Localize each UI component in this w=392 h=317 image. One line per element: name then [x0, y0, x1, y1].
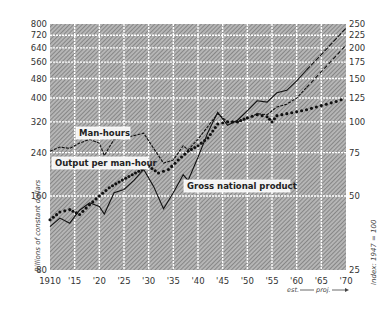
- output-dot: [71, 210, 74, 213]
- output-dot: [266, 115, 269, 118]
- output-dot: [78, 213, 81, 216]
- output-dot: [154, 169, 157, 172]
- output-dot: [111, 184, 114, 187]
- output-dot: [216, 123, 219, 126]
- right-tick-label: 200: [349, 43, 365, 53]
- chart: Man-hoursOutput per man-hourGross nation…: [0, 0, 392, 317]
- output-dot: [325, 103, 328, 106]
- output-dot: [320, 104, 323, 107]
- output-dot: [190, 148, 193, 151]
- output-dot: [203, 139, 206, 142]
- output-dot: [108, 186, 111, 189]
- output-dot: [275, 114, 278, 117]
- output-dot: [315, 105, 318, 108]
- output-dot: [340, 98, 343, 101]
- output-dot: [290, 111, 293, 114]
- output-dot: [85, 207, 88, 210]
- x-tick-label: '40: [191, 276, 204, 286]
- output-dot: [118, 180, 121, 183]
- output-dot: [200, 142, 203, 145]
- output-dot: [68, 208, 71, 211]
- left-tick-label: 400: [31, 93, 47, 103]
- left-tick-label: 480: [31, 74, 47, 84]
- man-hours-label: Man-hours: [79, 128, 130, 138]
- output-dot: [101, 192, 104, 195]
- output-dot: [300, 109, 303, 112]
- left-tick-label: 640: [31, 43, 47, 53]
- output-dot: [196, 144, 199, 147]
- output-dot: [170, 165, 173, 168]
- left-tick-label: 720: [31, 30, 47, 40]
- arrow-right-icon: [345, 288, 349, 292]
- x-tick-label: '30: [142, 276, 155, 286]
- output-dot: [295, 110, 298, 113]
- output-dot: [127, 175, 130, 178]
- x-tick-label: '45: [216, 276, 229, 286]
- right-tick-label: 75: [349, 148, 360, 158]
- output-dot: [173, 162, 176, 165]
- output-dot: [104, 189, 107, 192]
- output-dot: [94, 197, 97, 200]
- output-dot: [167, 168, 170, 171]
- output-dot: [177, 158, 180, 161]
- output-dot: [157, 171, 160, 174]
- left-tick-label: 800: [31, 19, 47, 29]
- output-dot: [270, 120, 273, 123]
- right-tick-label: 175: [349, 57, 365, 67]
- output-dot: [285, 112, 288, 115]
- output-dot: [63, 209, 66, 212]
- left-axis-label: Billions of constant dollars: [34, 179, 42, 272]
- output-dot: [91, 200, 94, 203]
- x-tick-label: '20: [93, 276, 106, 286]
- output-dot: [211, 129, 214, 132]
- output-dot: [58, 211, 61, 214]
- output-per-man-hour-label: Output per man-hour: [55, 158, 158, 168]
- output-dot: [98, 194, 101, 197]
- output-dot: [193, 146, 196, 149]
- x-tick-label: '35: [167, 276, 180, 286]
- output-dot: [162, 170, 165, 173]
- output-dot: [134, 171, 137, 174]
- output-dot: [180, 156, 183, 159]
- right-tick-label: 100: [349, 117, 365, 127]
- right-axis-ticks: 255075100125150175200225250: [349, 19, 365, 275]
- right-axis-label: Index: 1947 = 100: [370, 219, 378, 285]
- output-dot: [268, 118, 271, 121]
- output-dot: [52, 216, 55, 219]
- output-dot: [209, 133, 212, 136]
- output-dot: [48, 218, 51, 221]
- output-dot: [335, 100, 338, 103]
- right-tick-label: 250: [349, 19, 365, 29]
- output-dot: [305, 108, 308, 111]
- right-tick-label: 125: [349, 93, 365, 103]
- output-dot: [206, 136, 209, 139]
- x-tick-label: '50: [241, 276, 254, 286]
- left-tick-label: 560: [31, 57, 47, 67]
- x-tick-label: '15: [68, 276, 81, 286]
- x-tick-label: '65: [315, 276, 328, 286]
- x-tick-label: 1910: [39, 276, 61, 286]
- x-tick-label: '60: [290, 276, 303, 286]
- est-proj-annotation: est. proj.: [287, 286, 349, 294]
- x-tick-label: '25: [117, 276, 130, 286]
- output-dot: [280, 113, 283, 116]
- proj-label: proj.: [315, 286, 331, 294]
- gross-national-product-label: Gross national product: [187, 181, 297, 191]
- right-tick-label: 25: [349, 265, 360, 275]
- output-dot: [310, 107, 313, 110]
- output-dot: [137, 170, 140, 173]
- output-dot: [121, 179, 124, 182]
- x-tick-label: '55: [265, 276, 278, 286]
- output-dot: [114, 182, 117, 185]
- left-tick-label: 240: [31, 148, 47, 158]
- output-dot: [81, 210, 84, 213]
- output-dot: [214, 126, 217, 129]
- output-dot: [221, 121, 224, 124]
- output-dot: [330, 101, 333, 104]
- x-axis-ticks: 1910'15'20'25'30'35'40'45'50'55'60'65'70: [39, 276, 352, 286]
- output-dot: [183, 153, 186, 156]
- output-dot: [75, 211, 78, 214]
- left-tick-label: 320: [31, 117, 47, 127]
- est-label: est.: [287, 286, 299, 294]
- x-tick-label: '70: [339, 276, 352, 286]
